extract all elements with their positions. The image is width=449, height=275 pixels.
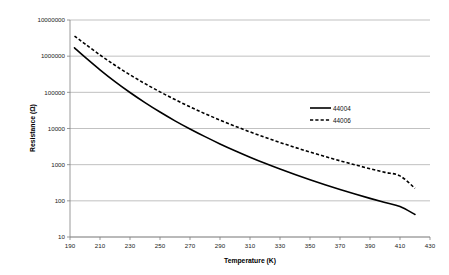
y-tick-label: 10000000 — [37, 16, 65, 23]
y-tick-label: 1000 — [51, 161, 65, 168]
x-tick-label: 310 — [245, 242, 256, 249]
x-tick-label: 390 — [365, 242, 376, 249]
y-tick-label: 1000000 — [41, 52, 66, 59]
x-tick-label: 230 — [125, 242, 136, 249]
y-tick-label: 100000 — [44, 89, 65, 96]
x-tick-label: 370 — [335, 242, 346, 249]
resistance-temperature-chart: 10100100010000100000100000010000000 1902… — [0, 0, 449, 275]
y-axis-title: Resistance (Ω) — [29, 104, 37, 152]
y-tick-label: 10 — [58, 233, 65, 240]
chart-container: 10100100010000100000100000010000000 1902… — [0, 0, 449, 275]
x-tick-label: 410 — [395, 242, 406, 249]
x-tick-label: 330 — [275, 242, 286, 249]
x-tick-label: 430 — [425, 242, 436, 249]
x-tick-label: 210 — [95, 242, 106, 249]
y-tick-label: 100 — [55, 197, 66, 204]
x-tick-label: 250 — [155, 242, 166, 249]
x-axis-title: Temperature (K) — [224, 257, 276, 265]
x-tick-label: 190 — [65, 242, 76, 249]
y-tick-label: 10000 — [48, 125, 66, 132]
x-tick-label: 350 — [305, 242, 316, 249]
legend-label-44004: 44004 — [333, 105, 351, 112]
x-tick-label: 290 — [215, 242, 226, 249]
x-tick-label: 270 — [185, 242, 196, 249]
legend-label-44006: 44006 — [333, 117, 351, 124]
